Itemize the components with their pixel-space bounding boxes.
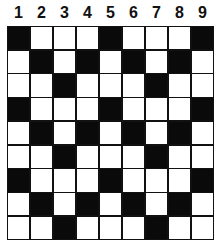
pattern-grid [7, 26, 214, 240]
grid-cell-r2-c9-empty [192, 51, 213, 73]
grid-cell-r4-c6-empty [123, 98, 144, 120]
grid-cell-r8-c3-empty [54, 193, 75, 215]
grid-cell-r7-c1-filled [8, 169, 29, 191]
grid-cell-r1-c4-empty [77, 27, 98, 49]
column-label-4: 4 [76, 2, 99, 24]
grid-cell-r3-c4-empty [77, 74, 98, 96]
column-label-6: 6 [122, 2, 145, 24]
grid-cell-r1-c9-filled [192, 27, 213, 49]
grid-cell-r3-c8-empty [169, 74, 190, 96]
grid-cell-r7-c6-empty [123, 169, 144, 191]
grid-cell-r6-c3-filled [54, 146, 75, 168]
grid-cell-r6-c8-empty [169, 146, 190, 168]
column-label-9: 9 [191, 2, 214, 24]
grid-cell-r3-c5-empty [100, 74, 121, 96]
grid-cell-r6-c6-empty [123, 146, 144, 168]
grid-cell-r7-c8-empty [169, 169, 190, 191]
grid-cell-r4-c1-filled [8, 98, 29, 120]
column-label-1: 1 [7, 2, 30, 24]
grid-cell-r1-c6-empty [123, 27, 144, 49]
grid-cell-r3-c6-empty [123, 74, 144, 96]
grid-cell-r5-c3-empty [54, 122, 75, 144]
grid-cell-r7-c9-filled [192, 169, 213, 191]
grid-cell-r8-c2-filled [31, 193, 52, 215]
grid-cell-r4-c5-filled [100, 98, 121, 120]
grid-cell-r2-c4-filled [77, 51, 98, 73]
grid-cell-r2-c8-filled [169, 51, 190, 73]
grid-cell-r1-c2-empty [31, 27, 52, 49]
grid-cell-r9-c7-filled [146, 217, 167, 239]
grid-cell-r3-c7-filled [146, 74, 167, 96]
grid-cell-r8-c9-empty [192, 193, 213, 215]
grid-cell-r6-c7-filled [146, 146, 167, 168]
column-label-7: 7 [145, 2, 168, 24]
grid-cell-r2-c5-empty [100, 51, 121, 73]
grid-cell-r5-c8-filled [169, 122, 190, 144]
grid-cell-r2-c7-empty [146, 51, 167, 73]
grid-cell-r7-c5-filled [100, 169, 121, 191]
grid-cell-r5-c5-empty [100, 122, 121, 144]
grid-cell-r9-c6-empty [123, 217, 144, 239]
grid-cell-r5-c4-filled [77, 122, 98, 144]
grid-cell-r2-c6-filled [123, 51, 144, 73]
grid-cell-r9-c4-empty [77, 217, 98, 239]
grid-cell-r3-c3-filled [54, 74, 75, 96]
grid-cell-r8-c5-empty [100, 193, 121, 215]
grid-cell-r4-c4-empty [77, 98, 98, 120]
grid-cell-r5-c7-empty [146, 122, 167, 144]
column-label-8: 8 [168, 2, 191, 24]
grid-cell-r1-c1-filled [8, 27, 29, 49]
grid-cell-r9-c3-filled [54, 217, 75, 239]
grid-cell-r9-c9-empty [192, 217, 213, 239]
grid-cell-r8-c6-filled [123, 193, 144, 215]
column-labels: 1 2 3 4 5 6 7 8 9 [7, 2, 214, 24]
grid-cell-r9-c1-empty [8, 217, 29, 239]
column-label-3: 3 [53, 2, 76, 24]
grid-cell-r6-c9-empty [192, 146, 213, 168]
grid-cell-r4-c2-empty [31, 98, 52, 120]
grid-cell-r9-c5-empty [100, 217, 121, 239]
grid-cell-r6-c2-empty [31, 146, 52, 168]
grid-cell-r5-c6-filled [123, 122, 144, 144]
grid-cell-r7-c3-empty [54, 169, 75, 191]
grid-cell-r6-c5-empty [100, 146, 121, 168]
grid-cell-r8-c7-empty [146, 193, 167, 215]
grid-cell-r6-c1-empty [8, 146, 29, 168]
grid-cell-r1-c8-empty [169, 27, 190, 49]
grid-cell-r1-c3-empty [54, 27, 75, 49]
grid-cell-r8-c8-filled [169, 193, 190, 215]
grid-cell-r2-c1-empty [8, 51, 29, 73]
grid-cell-r4-c8-empty [169, 98, 190, 120]
grid-cell-r9-c2-empty [31, 217, 52, 239]
grid-cell-r5-c9-empty [192, 122, 213, 144]
grid-cell-r5-c1-empty [8, 122, 29, 144]
grid-cell-r4-c9-filled [192, 98, 213, 120]
grid-cell-r2-c3-empty [54, 51, 75, 73]
grid-cell-r1-c7-empty [146, 27, 167, 49]
grid-cell-r7-c4-empty [77, 169, 98, 191]
grid-cell-r3-c9-empty [192, 74, 213, 96]
grid-cell-r7-c7-empty [146, 169, 167, 191]
grid-cell-r8-c4-filled [77, 193, 98, 215]
grid-cell-r5-c2-filled [31, 122, 52, 144]
column-label-2: 2 [30, 2, 53, 24]
grid-cell-r8-c1-empty [8, 193, 29, 215]
grid-cell-r4-c7-empty [146, 98, 167, 120]
column-label-5: 5 [99, 2, 122, 24]
grid-cell-r1-c5-filled [100, 27, 121, 49]
grid-cell-r7-c2-empty [31, 169, 52, 191]
grid-cell-r3-c2-empty [31, 74, 52, 96]
grid-cell-r4-c3-empty [54, 98, 75, 120]
grid-cell-r9-c8-empty [169, 217, 190, 239]
grid-cell-r3-c1-empty [8, 74, 29, 96]
grid-cell-r2-c2-filled [31, 51, 52, 73]
grid-cell-r6-c4-empty [77, 146, 98, 168]
